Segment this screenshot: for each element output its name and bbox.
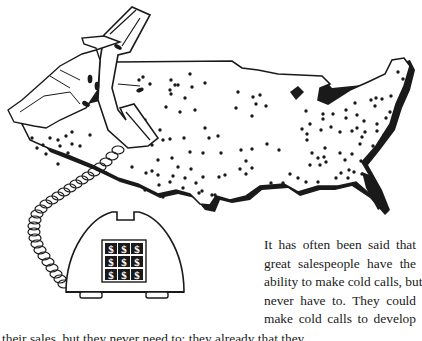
svg-text:$: $ [121, 243, 127, 255]
text-line: It has often been said that [264, 236, 416, 255]
svg-text:$: $ [134, 243, 140, 255]
svg-text:$: $ [121, 256, 127, 268]
svg-text:$: $ [108, 269, 114, 281]
body-paragraph: It has often been said that great salesp… [264, 236, 416, 329]
dollar-keypad: $$$ $$$ $$$ [102, 240, 146, 282]
svg-text:$: $ [121, 269, 127, 281]
text-line: great salespeople have the [264, 255, 416, 274]
svg-text:$: $ [134, 256, 140, 268]
svg-text:$: $ [108, 256, 114, 268]
text-line: make cold calls to develop [264, 310, 416, 329]
text-line: never have to. They could [264, 292, 416, 311]
cut-off-text-line: their sales, but they never need to; the… [2, 330, 412, 341]
svg-text:$: $ [108, 243, 114, 255]
svg-text:$: $ [134, 269, 140, 281]
text-line: ability to make cold calls, but [264, 273, 416, 292]
